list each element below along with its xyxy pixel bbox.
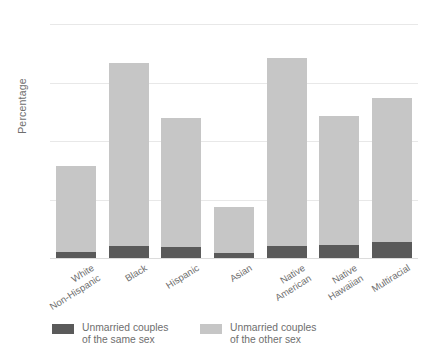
bar-group[interactable]	[319, 116, 359, 258]
x-axis-label: Black	[123, 262, 149, 284]
x-axis-label: WhiteNon-Hispanic	[41, 262, 102, 312]
x-axis-labels: WhiteNon-HispanicBlackHispanicAsianNativ…	[50, 258, 418, 314]
x-axis-label: NativeHawaiian	[320, 262, 366, 302]
stacked-bar-chart: Percentage 05101520 WhiteNon-HispanicBla…	[0, 0, 423, 353]
legend-label: Unmarried couplesof the other sex	[230, 322, 316, 346]
x-axis-label: Multiracial	[369, 262, 412, 295]
bar-segment-other-sex[interactable]	[319, 116, 359, 245]
bar-segment-same-sex[interactable]	[267, 246, 307, 258]
legend-item[interactable]: Unmarried couplesof the other sex	[200, 322, 316, 346]
legend-swatch	[52, 324, 74, 334]
bar-group[interactable]	[161, 118, 201, 258]
legend-label: Unmarried couplesof the same sex	[82, 322, 168, 346]
bar-group[interactable]	[372, 98, 412, 258]
bar-segment-other-sex[interactable]	[161, 118, 201, 248]
plot-area: 05101520	[50, 24, 418, 258]
bar-segment-other-sex[interactable]	[372, 98, 412, 242]
bar-segment-same-sex[interactable]	[372, 242, 412, 258]
bar-segment-other-sex[interactable]	[109, 63, 149, 247]
bar-group[interactable]	[56, 166, 96, 258]
y-axis-title: Percentage	[16, 46, 28, 166]
legend: Unmarried couplesof the same sexUnmarrie…	[52, 322, 412, 352]
bar-segment-same-sex[interactable]	[109, 246, 149, 258]
bar-segment-same-sex[interactable]	[319, 245, 359, 258]
bar-series-container	[50, 24, 418, 258]
x-axis-label: Asian	[228, 262, 254, 284]
bar-group[interactable]	[214, 207, 254, 258]
bar-segment-other-sex[interactable]	[267, 58, 307, 246]
x-axis-label: Hispanic	[164, 262, 201, 291]
x-axis-label: NativeAmerican	[266, 262, 313, 303]
bar-segment-other-sex[interactable]	[56, 166, 96, 253]
legend-swatch	[200, 324, 222, 334]
bar-segment-other-sex[interactable]	[214, 207, 254, 254]
bar-segment-same-sex[interactable]	[161, 247, 201, 258]
bar-group[interactable]	[109, 63, 149, 258]
bar-group[interactable]	[267, 58, 307, 258]
legend-item[interactable]: Unmarried couplesof the same sex	[52, 322, 168, 346]
